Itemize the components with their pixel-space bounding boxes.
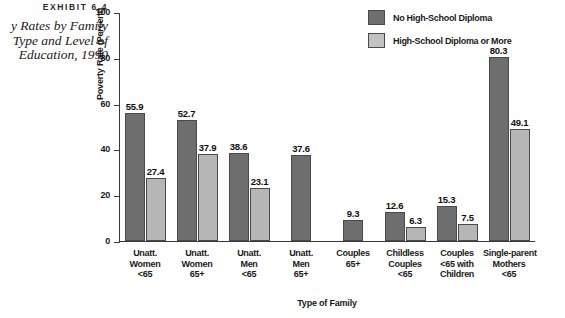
bar-group: 15.37.5	[431, 12, 483, 241]
bar: 52.7	[177, 120, 197, 241]
x-axis-tick-label: Unatt.Men<65	[223, 248, 275, 280]
x-axis-tick-label-line: <65 with	[431, 259, 483, 270]
bar-group: 52.737.9	[171, 12, 223, 241]
bar-value-label: 49.1	[511, 117, 528, 128]
y-axis-tick-label: 80	[101, 53, 110, 63]
bar: 49.1	[510, 129, 530, 241]
exhibit-title-line-2: Type and Level of	[0, 34, 108, 49]
bar-value-label: 38.6	[230, 141, 247, 152]
bar: 6.3	[406, 227, 426, 241]
bar: 37.9	[198, 154, 218, 241]
x-axis-tick-label-line: Women	[119, 259, 171, 270]
x-axis-tick-label-line: Children	[431, 269, 483, 280]
y-axis-tick-label: 100	[96, 7, 110, 17]
exhibit-number: EXHIBIT 6.4	[0, 2, 108, 12]
y-axis-tick-label: 0	[105, 236, 110, 246]
y-axis-tick-label: 20	[101, 190, 110, 200]
x-axis-tick-label-line: Unatt.	[275, 248, 327, 259]
bar: 55.9	[125, 113, 145, 241]
bar-value-label: 23.1	[251, 176, 268, 187]
x-axis-tick-label-line: Men	[223, 259, 275, 270]
x-axis-tick-label-line: Single-parent	[483, 248, 535, 259]
bar-value-label: 7.5	[461, 212, 473, 223]
bar: 37.6	[291, 155, 311, 241]
x-axis-tick-label-line: Childless	[379, 248, 431, 259]
x-axis-tick-label-line: 65+	[327, 259, 379, 270]
bar: 38.6	[229, 153, 249, 241]
x-axis-line	[119, 241, 535, 242]
bar-value-label: 37.6	[292, 143, 309, 154]
x-axis-tick-label-line: <65	[379, 269, 431, 280]
bar: 15.3	[437, 206, 457, 241]
y-axis-tick-label: 40	[101, 144, 110, 154]
bar-value-label: 52.7	[178, 108, 195, 119]
x-axis-tick-label: Unatt.Women65+	[171, 248, 223, 280]
bar-value-label: 9.3	[347, 208, 359, 219]
x-axis-tick-label-line: Women	[171, 259, 223, 270]
bar: 27.4	[146, 178, 166, 241]
exhibit-title-line-1: y Rates by Family	[0, 19, 108, 34]
bar-group: 9.3	[327, 12, 379, 241]
y-axis-tick-label: 60	[101, 99, 110, 109]
exhibit-title-line-3: Education, 1990	[0, 48, 108, 63]
bar: 23.1	[250, 188, 270, 241]
x-axis-tick-label-line: Couples	[431, 248, 483, 259]
exhibit-caption: EXHIBIT 6.4 y Rates by Family Type and L…	[0, 2, 108, 63]
y-axis-tick-mark	[114, 242, 120, 243]
bar-value-label: 12.6	[386, 200, 403, 211]
plot-area: 020406080100 55.927.452.737.938.623.137.…	[119, 13, 535, 242]
bar-group: 80.349.1	[483, 12, 535, 241]
bar-value-label: 55.9	[126, 101, 143, 112]
x-axis-tick-label-line: <65	[119, 269, 171, 280]
bar-value-label: 37.9	[199, 142, 216, 153]
x-axis-tick-label-line: Couples	[327, 248, 379, 259]
x-axis-tick-label: Couples<65 withChildren	[431, 248, 483, 280]
bar-group: 37.6	[275, 12, 327, 241]
bar-group: 38.623.1	[223, 12, 275, 241]
bar: 9.3	[343, 220, 363, 241]
x-axis-tick-label-line: Unatt.	[223, 248, 275, 259]
x-axis-tick-label-line: Couples	[379, 259, 431, 270]
x-axis-tick-label: Unatt.Women<65	[119, 248, 171, 280]
x-axis-tick-label-line: <65	[223, 269, 275, 280]
exhibit-figure: EXHIBIT 6.4 y Rates by Family Type and L…	[0, 0, 565, 318]
x-axis-tick-label-line: <65	[483, 269, 535, 280]
exhibit-title: y Rates by Family Type and Level of Educ…	[0, 19, 108, 63]
x-axis-tick-label: Couples65+	[327, 248, 379, 269]
x-axis-tick-label: Single-parentMothers<65	[483, 248, 535, 280]
bar-group: 55.927.4	[119, 12, 171, 241]
bar: 80.3	[489, 57, 509, 241]
bar-group: 12.66.3	[379, 12, 431, 241]
x-axis-tick-label-line: Unatt.	[171, 248, 223, 259]
x-axis-tick-label-line: Men	[275, 259, 327, 270]
x-axis-tick-label-line: Mothers	[483, 259, 535, 270]
x-axis-tick-label-line: Unatt.	[119, 248, 171, 259]
bar-value-label: 6.3	[409, 215, 421, 226]
x-axis-title: Type of Family	[119, 298, 535, 308]
bar-value-label: 27.4	[147, 166, 164, 177]
bar-value-label: 80.3	[490, 45, 507, 56]
bar-value-label: 15.3	[438, 194, 455, 205]
x-axis-tick-label-line: 65+	[171, 269, 223, 280]
x-axis-tick-label-line: 65+	[275, 269, 327, 280]
bar: 12.6	[385, 212, 405, 241]
x-axis-tick-label: Unatt.Men65+	[275, 248, 327, 280]
x-axis-tick-label: ChildlessCouples<65	[379, 248, 431, 280]
bar: 7.5	[458, 224, 478, 241]
